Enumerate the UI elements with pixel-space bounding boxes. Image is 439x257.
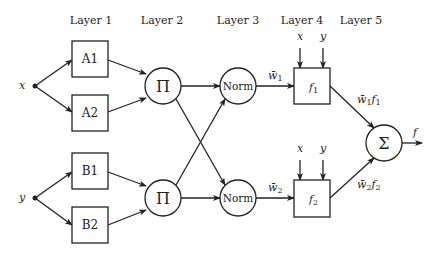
edge-f1-sum bbox=[330, 86, 374, 128]
svg-text:A1: A1 bbox=[81, 52, 98, 66]
svg-text:A2: A2 bbox=[81, 106, 98, 120]
edge-y-b1 bbox=[35, 172, 72, 198]
input-x-label: x bbox=[19, 79, 26, 92]
edge-x-a1 bbox=[35, 60, 72, 86]
f2-input-y-label: y bbox=[319, 142, 327, 155]
svg-text:Σ: Σ bbox=[378, 134, 389, 153]
svg-text:Π: Π bbox=[156, 77, 170, 96]
layer-2-label: Layer 2 bbox=[141, 14, 183, 27]
svg-text:Norm: Norm bbox=[223, 80, 254, 92]
node-a1: A1 bbox=[72, 41, 108, 77]
output-f-label: f bbox=[412, 126, 419, 139]
edge-a2-pi1 bbox=[108, 98, 146, 112]
node-sum: Σ bbox=[366, 125, 402, 161]
layer-3-label: Layer 3 bbox=[217, 14, 259, 27]
edge-b1-pi2 bbox=[108, 172, 146, 186]
node-product-1: Π bbox=[145, 68, 181, 104]
node-product-2: Π bbox=[145, 180, 181, 216]
edge-f2-sum bbox=[330, 158, 374, 198]
layer-5-label: Layer 5 bbox=[340, 14, 382, 27]
node-a2: A2 bbox=[72, 95, 108, 131]
anfis-diagram: Layer 1 Layer 2 Layer 3 Layer 4 Layer 5 … bbox=[0, 0, 439, 257]
node-f2: f2 bbox=[294, 180, 330, 217]
svg-text:B2: B2 bbox=[82, 218, 98, 232]
edge-x-a2 bbox=[35, 86, 72, 112]
node-norm-1: Norm bbox=[220, 68, 256, 104]
edge-y-b2 bbox=[35, 198, 72, 225]
label-w1f1: w̄1f1 bbox=[357, 93, 381, 107]
layer-1-label: Layer 1 bbox=[70, 14, 112, 27]
label-w2f2: w̄2f2 bbox=[357, 178, 381, 192]
edge-a1-pi1 bbox=[108, 60, 146, 74]
node-b1: B1 bbox=[72, 153, 108, 189]
layer-4-label: Layer 4 bbox=[281, 14, 323, 27]
node-b2: B2 bbox=[72, 207, 108, 243]
f1-input-x-label: x bbox=[297, 30, 304, 43]
f2-input-x-label: x bbox=[297, 142, 304, 155]
svg-text:Π: Π bbox=[156, 189, 170, 208]
edge-b2-pi2 bbox=[108, 210, 146, 225]
f1-input-y-label: y bbox=[319, 30, 327, 43]
svg-text:B1: B1 bbox=[82, 164, 98, 178]
label-w2-bar: w̄2 bbox=[268, 181, 283, 195]
node-f1: f1 bbox=[294, 68, 330, 104]
label-w1-bar: w̄1 bbox=[268, 69, 283, 83]
node-norm-2: Norm bbox=[220, 180, 256, 216]
svg-text:Norm: Norm bbox=[223, 192, 254, 204]
input-y-label: y bbox=[18, 191, 26, 204]
